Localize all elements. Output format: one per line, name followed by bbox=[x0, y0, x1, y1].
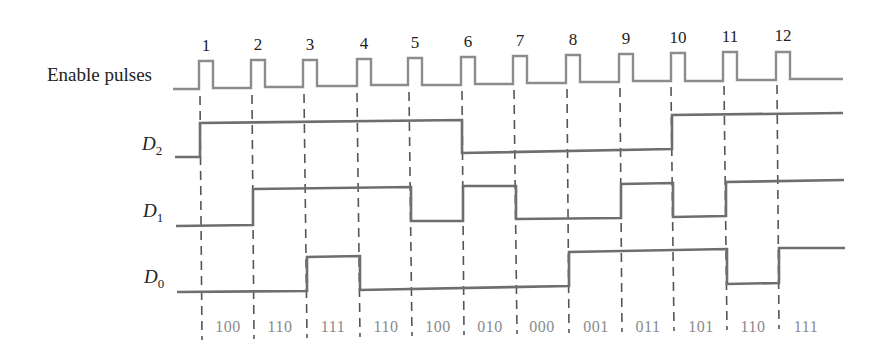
state-label: 010 bbox=[477, 318, 503, 336]
state-label: 100 bbox=[215, 318, 241, 336]
state-label: 000 bbox=[529, 318, 555, 336]
state-label: 110 bbox=[374, 318, 399, 336]
pulse-number: 8 bbox=[569, 30, 578, 50]
pulse-number: 6 bbox=[464, 32, 473, 52]
d0-label-letter: D bbox=[144, 266, 158, 287]
pulse-number: 3 bbox=[306, 35, 315, 55]
timing-diagram bbox=[0, 0, 881, 354]
d1-label: D1 bbox=[143, 200, 163, 226]
state-label: 111 bbox=[321, 318, 345, 336]
pulse-number: 12 bbox=[775, 26, 792, 46]
state-label: 101 bbox=[688, 318, 714, 336]
d0-label-subscript: 0 bbox=[158, 276, 165, 291]
pulse-number: 10 bbox=[670, 28, 687, 48]
enable-pulse-trace bbox=[173, 52, 843, 89]
d1-trace bbox=[176, 180, 844, 226]
pulse-number: 9 bbox=[622, 29, 631, 49]
pulse-number: 5 bbox=[411, 33, 420, 53]
enable-pulses-label: Enable pulses bbox=[47, 64, 152, 86]
d2-label-subscript: 2 bbox=[156, 143, 163, 158]
state-label: 110 bbox=[268, 318, 293, 336]
state-label: 111 bbox=[794, 318, 818, 336]
d0-label: D0 bbox=[144, 266, 164, 292]
state-label: 001 bbox=[583, 318, 609, 336]
pulse-number: 2 bbox=[254, 35, 263, 55]
pulse-number: 11 bbox=[722, 27, 738, 47]
d2-trace bbox=[175, 113, 843, 157]
d0-trace bbox=[177, 248, 845, 292]
pulse-number: 7 bbox=[516, 31, 525, 51]
d1-label-letter: D bbox=[143, 200, 157, 221]
d2-label-letter: D bbox=[142, 133, 156, 154]
pulse-number: 1 bbox=[202, 36, 211, 56]
d1-label-subscript: 1 bbox=[157, 210, 164, 225]
pulse-number: 4 bbox=[360, 34, 369, 54]
state-label: 011 bbox=[636, 318, 661, 336]
state-label: 100 bbox=[425, 318, 451, 336]
d2-label: D2 bbox=[142, 133, 162, 159]
state-label: 110 bbox=[741, 318, 766, 336]
